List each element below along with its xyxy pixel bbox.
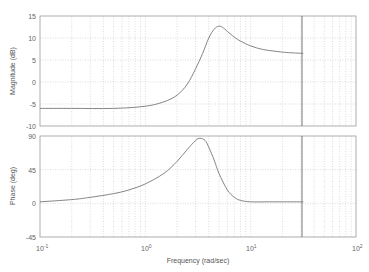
mag-tick-5: 5 [32,57,36,64]
svg-text:101: 101 [246,243,257,252]
x-tick-0.1: 10-1 [36,243,48,252]
svg-text:10-1: 10-1 [36,243,48,252]
mag-tick-neg5: -5 [30,101,36,108]
phase-tick-neg45: -45 [26,234,36,241]
magnitude-curve [40,26,303,108]
mag-tick-0: 0 [32,79,36,86]
mag-tick-15: 15 [28,13,36,20]
phase-axes-box [40,136,356,237]
x-tick-10: 101 [246,243,257,252]
x-tick-100: 102 [352,243,363,252]
mag-tick-neg10: -10 [26,123,36,130]
x-tick-1: 100 [141,243,152,252]
phase-curve [40,138,303,202]
x-axis-label: Frequency (rad/sec) [167,257,230,265]
magnitude-ylabel: Magnitude (dB) [9,47,17,95]
phase-tick-45: 45 [28,167,36,174]
phase-tick-90: 90 [28,133,36,140]
phase-grid [40,136,356,237]
magnitude-axes-box [40,16,356,126]
mag-tick-10: 10 [28,35,36,42]
svg-text:100: 100 [141,243,152,252]
phase-ylabel: Phase (deg) [9,167,17,205]
svg-text:102: 102 [352,243,363,252]
bode-plot: 15 10 5 0 -5 -10 90 45 0 -45 Magnitude (… [0,0,369,272]
phase-tick-0: 0 [32,200,36,207]
magnitude-grid [40,16,356,126]
